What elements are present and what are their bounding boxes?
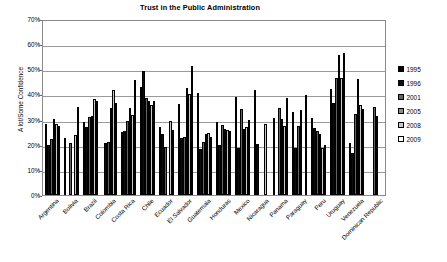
legend-swatch [398, 80, 404, 86]
bar-group [309, 21, 328, 195]
bar [264, 124, 267, 195]
x-tick-label: Brazil [82, 197, 98, 213]
bar-group [119, 21, 138, 195]
y-tick-label: 50% [2, 67, 40, 73]
bar-group [62, 21, 81, 195]
bar [96, 101, 99, 195]
bar [248, 120, 251, 195]
bar [134, 80, 137, 195]
bar [256, 144, 259, 195]
bar [210, 137, 213, 195]
bar [191, 66, 194, 195]
legend-item: 1995 [398, 62, 447, 76]
y-tick-label: 70% [2, 17, 40, 23]
bar [153, 101, 156, 195]
bar [164, 147, 167, 195]
bar-group [328, 21, 347, 195]
y-tick-label: 10% [2, 168, 40, 174]
bar-group [157, 21, 176, 195]
bar-group [290, 21, 309, 195]
bar-chart: Trust in the Public Administration A lot… [0, 0, 447, 262]
y-tick-label: 40% [2, 92, 40, 98]
plot-area [42, 20, 386, 196]
legend-swatch [398, 108, 404, 114]
y-tick-label: 60% [2, 42, 40, 48]
bar [376, 116, 379, 195]
y-tick-label: 20% [2, 143, 40, 149]
bar-group [366, 21, 385, 195]
legend-swatch [398, 66, 404, 72]
bar [58, 126, 61, 195]
legend-item: 1996 [398, 76, 447, 90]
bar-group [233, 21, 252, 195]
x-tick-label: Argentina [36, 197, 60, 221]
legend-swatch [398, 136, 404, 142]
bar [64, 138, 67, 195]
bar [300, 110, 303, 195]
bar-group [252, 21, 271, 195]
legend-item: 2001 [398, 90, 447, 104]
bar-group [195, 21, 214, 195]
legend-item: 2005 [398, 104, 447, 118]
bar [229, 131, 232, 195]
legend-swatch [398, 94, 404, 100]
legend-item: 2009 [398, 132, 447, 146]
legend-label: 1996 [407, 80, 421, 87]
legend-item: 2008 [398, 118, 447, 132]
bar [362, 109, 365, 195]
legend-label: 2008 [407, 122, 421, 129]
bar [273, 118, 276, 195]
bar-group [214, 21, 233, 195]
bar-group [100, 21, 119, 195]
x-tick-label: Bolivia [61, 197, 79, 215]
bar-group [271, 21, 290, 195]
legend-swatch [398, 122, 404, 128]
y-axis-ticks: 70%60%50%40%30%20%10%0% [0, 20, 40, 196]
bar [115, 103, 118, 195]
bar-groups [43, 21, 385, 195]
x-tick-label: Peru [313, 197, 327, 211]
chart-legend: 199519962001200520082009 [398, 62, 447, 146]
bar [305, 95, 308, 195]
y-tick-label: 30% [2, 118, 40, 124]
legend-label: 2001 [407, 94, 421, 101]
x-axis-labels: ArgentinaBoliviaBrazilColombiaCosta Rica… [42, 197, 386, 261]
bar [69, 143, 72, 195]
bar [343, 53, 346, 195]
chart-title: Trust in the Public Administration [0, 3, 400, 12]
legend-label: 2005 [407, 108, 421, 115]
bar-group [43, 21, 62, 195]
bar-group [81, 21, 100, 195]
bar-group [176, 21, 195, 195]
bar-group [138, 21, 157, 195]
y-tick-label: 0% [2, 193, 40, 199]
bar [77, 107, 80, 196]
bar [324, 145, 327, 195]
legend-label: 1995 [407, 66, 421, 73]
x-tick-label: Chile [140, 197, 155, 212]
bar [172, 130, 175, 195]
legend-label: 2009 [407, 136, 421, 143]
bar-group [347, 21, 366, 195]
bar [286, 98, 289, 195]
